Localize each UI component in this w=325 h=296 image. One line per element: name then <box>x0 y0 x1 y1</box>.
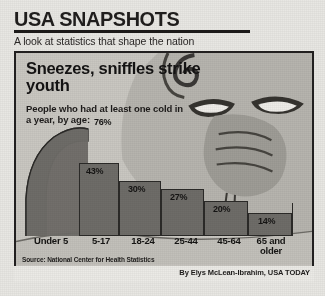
bar-value-65-and-older: 14% <box>258 216 275 226</box>
masthead: USA SNAPSHOTS A look at statistics that … <box>14 8 314 48</box>
category-5-17: 5-17 <box>80 236 122 246</box>
bar-value-5-17: 43% <box>86 166 103 176</box>
masthead-title: USA SNAPSHOTS <box>14 8 320 29</box>
category-65-and-older: 65 and older <box>250 236 292 256</box>
category-18-24: 18-24 <box>121 236 165 246</box>
source-note: Source: National Center for Health Stati… <box>22 256 154 263</box>
byline-credit: By Elys McLean-Ibrahim, USA TODAY <box>179 268 310 277</box>
bar-value-under-5: 76% <box>94 117 111 127</box>
byline-strip: By Elys McLean-Ibrahim, USA TODAY <box>14 266 314 282</box>
bar-value-18-24: 30% <box>128 184 145 194</box>
right-axis-tick <box>292 203 293 236</box>
masthead-subtitle: A look at statistics that shape the nati… <box>14 35 314 47</box>
bar-value-45-64: 20% <box>213 204 230 214</box>
bar-value-25-44: 27% <box>170 192 187 202</box>
category-under-5: Under 5 <box>22 236 80 246</box>
category-45-64: 45-64 <box>207 236 251 246</box>
masthead-underline <box>14 30 250 33</box>
snapshot-panel: Sneezes, sniffles strike youth People wh… <box>14 51 314 268</box>
category-25-44: 25-44 <box>164 236 208 246</box>
